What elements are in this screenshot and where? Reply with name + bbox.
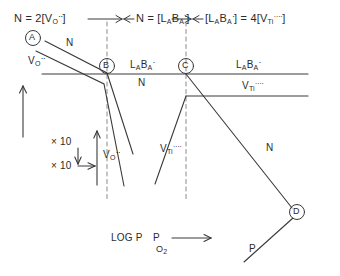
- vti-mid-sup: ····: [173, 142, 182, 151]
- arrowhead-4b: [193, 19, 199, 23]
- vertex-label-b: B: [103, 61, 109, 70]
- vti-right-sym: V: [242, 80, 249, 91]
- region-3-sup2: ····: [274, 12, 283, 21]
- lb-right-sup: ·: [258, 57, 260, 67]
- arrowhead-2b: [124, 19, 130, 23]
- x-axis-label-text: LOG P: [111, 232, 143, 243]
- curve-label-lb-mid: LABA·: [130, 58, 155, 71]
- x-axis-symbol: P: [153, 233, 160, 243]
- vo-left-sym: V: [28, 55, 35, 66]
- curve-p-right: [244, 218, 293, 262]
- scale-label-vertical: × 10: [51, 137, 72, 147]
- brouwer-diagram-figure: N = 2[VO··] N = [LABA·] [LABA·] = 4[VTi·…: [0, 0, 340, 276]
- lb-mid-sup: ·: [152, 57, 154, 67]
- curve-label-n-mid: N: [138, 78, 145, 88]
- x-axis-arrow: [172, 235, 211, 242]
- vti-right-sup: ····: [255, 79, 264, 88]
- region-3-lhs: [L: [205, 12, 215, 24]
- curve-label-vti-right: VTi····: [242, 80, 264, 92]
- vo-mid-sym: V: [103, 149, 110, 160]
- region-1-rhs: ]: [62, 12, 65, 24]
- x-axis-subscript: O2: [156, 245, 167, 255]
- region-3-rhs: ]: [282, 12, 285, 24]
- curve-label-p-right: P: [249, 244, 256, 254]
- curve-label-n-left: N: [66, 38, 73, 48]
- region-1-lhs: N = 2[V: [14, 12, 52, 24]
- region-2-rhs: ]: [186, 12, 189, 24]
- x-axis-p-symbol: P: [153, 232, 160, 243]
- curve-vti-mid: [155, 96, 186, 184]
- vti-mid-sym: V: [160, 143, 167, 154]
- vertex-label-d: D: [293, 207, 300, 216]
- arrowhead-2a: [124, 16, 130, 20]
- reference-arrow-left: [20, 86, 27, 137]
- region-label-2: N = [LABA·]: [136, 12, 190, 25]
- arrowhead-1b: [116, 19, 122, 23]
- curve-label-lb-right: LABA·: [236, 58, 261, 71]
- scale-label-horizontal: × 10: [51, 161, 72, 171]
- curve-label-vo-mid: VO··: [103, 148, 120, 161]
- x-axis-label: LOG P: [111, 233, 143, 243]
- lb-mid-mid: B: [141, 59, 148, 70]
- lb-right-mid: B: [247, 59, 254, 70]
- vo-left-sup: ··: [41, 53, 45, 63]
- vo-mid-sup: ··: [116, 147, 120, 157]
- region-label-3: [LABA·] = 4[VTi····]: [205, 12, 286, 25]
- region-3-eq: ] = 4[V: [234, 12, 268, 24]
- region-label-1: N = 2[VO··]: [14, 12, 66, 25]
- vertex-label-c: C: [182, 61, 189, 70]
- vertex-label-a: A: [29, 33, 35, 42]
- region-2-lhs: N = [L: [136, 12, 167, 24]
- scale-arrow-horizontal: [75, 148, 95, 169]
- curve-label-vti-mid: VTi····: [160, 143, 182, 155]
- curve-n-right: [186, 74, 292, 208]
- x-axis-sub-2: 2: [163, 248, 167, 255]
- arrowhead-4a: [193, 16, 199, 20]
- region-3-mid: B: [219, 12, 227, 24]
- curve-label-n-right: N: [266, 143, 273, 153]
- arrowhead-1a: [116, 16, 122, 20]
- scale-arrow-vertical: [94, 131, 100, 185]
- curve-label-vo-left: VO··: [28, 54, 45, 67]
